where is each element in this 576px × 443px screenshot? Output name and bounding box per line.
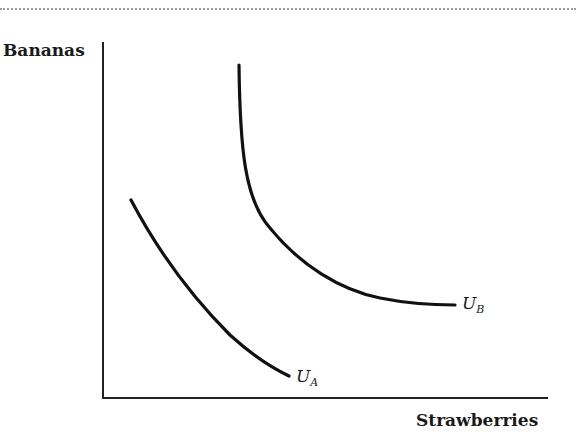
indifference-curve-ub <box>239 65 455 305</box>
indifference-curve-ua <box>131 200 289 376</box>
curve-label-ua: UA <box>296 366 318 389</box>
curve-label-ub: UB <box>462 293 484 316</box>
plot-area <box>0 0 576 443</box>
